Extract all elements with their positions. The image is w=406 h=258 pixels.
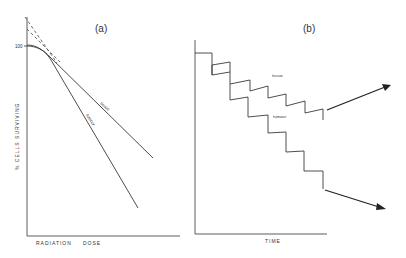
tumour-trend-arrow: [325, 190, 379, 207]
panel-a-label: (a): [95, 23, 107, 34]
panel-a: (a) 100 tissue tumour % CELLS SURVIVING …: [14, 17, 180, 246]
tissue-trend-arrow: [327, 87, 385, 110]
panel-b-label: (b): [303, 23, 315, 34]
y-axis-title: % CELLS SURVIVING: [14, 103, 20, 170]
tissue-survival-curve: [27, 46, 153, 158]
y-tick-100: 100: [15, 44, 23, 49]
time-axis-title: TIME: [265, 238, 281, 244]
tumour-curve-label: tumour: [85, 113, 96, 127]
tumour-fractionated-curve: [230, 84, 323, 189]
radiation-survival-figure: (a) 100 tissue tumour % CELLS SURVIVING …: [0, 0, 406, 258]
tumour-arrowhead-icon: [376, 203, 386, 210]
x-axis-title-radiation: RADIATION: [36, 240, 72, 246]
tissue-fractionated-curve: [212, 53, 323, 120]
tumour-label-b: tumour: [273, 114, 287, 119]
panel-b: (b) tissue tumour TIME: [195, 23, 391, 244]
tissue-label-b: tissue: [272, 73, 284, 78]
x-axis-title-dose: DOSE: [83, 240, 101, 246]
tumour-extrapolation-dashed: [25, 17, 57, 63]
